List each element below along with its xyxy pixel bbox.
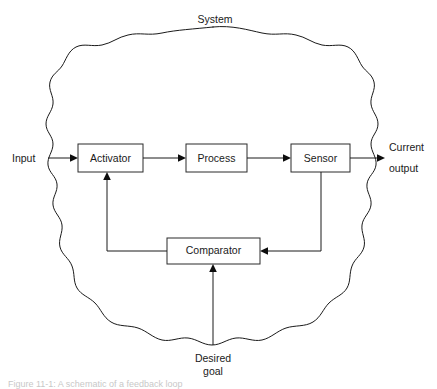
comparator-to-activator-arrowhead xyxy=(103,172,111,180)
system-label: System xyxy=(197,13,232,25)
sensor-to-comparator-feedback-line xyxy=(262,172,321,251)
comparator-to-activator-feedback-line xyxy=(107,174,167,251)
figure-caption: Figure 11-1: A schematic of a feedback l… xyxy=(8,379,182,389)
activator-label: Activator xyxy=(90,152,131,164)
process-label: Process xyxy=(198,152,236,164)
current-output-label-line2: output xyxy=(389,162,418,174)
sensor-to-comparator-arrowhead xyxy=(260,247,268,255)
sensor-label: Sensor xyxy=(304,152,338,164)
desired-goal-label-line2: goal xyxy=(203,365,223,377)
input-to-activator-arrowhead xyxy=(70,154,78,162)
desired-goal-label-line1: Desired xyxy=(195,352,231,364)
current-output-label-line1: Current xyxy=(389,141,424,153)
desired-goal-arrowhead xyxy=(209,264,217,272)
activator-to-process-arrowhead xyxy=(178,154,186,162)
input-label: Input xyxy=(12,152,35,164)
sensor-to-output-arrowhead xyxy=(377,154,385,162)
system-boundary-outline xyxy=(46,27,378,345)
feedback-loop-figure: System Input Activator Process Sensor Cu… xyxy=(0,0,437,389)
comparator-label: Comparator xyxy=(186,244,242,256)
process-to-sensor-arrowhead xyxy=(283,154,291,162)
diagram-canvas: System Input Activator Process Sensor Cu… xyxy=(0,0,437,389)
